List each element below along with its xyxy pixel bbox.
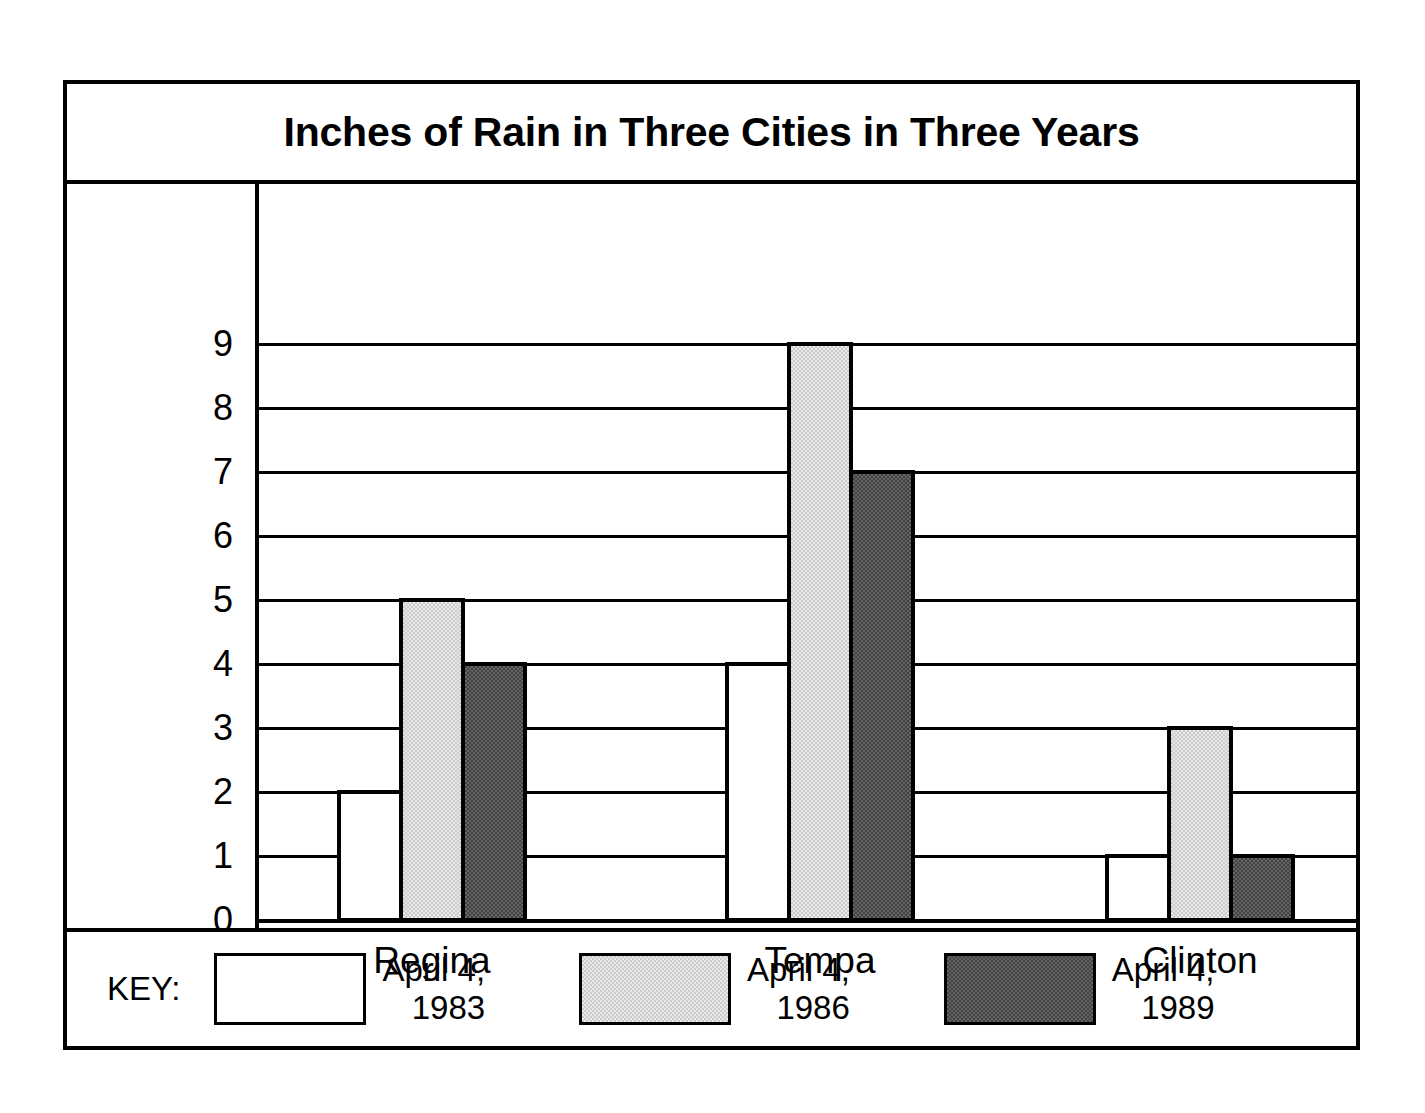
y-tick-label-7: 7 — [213, 454, 233, 490]
bar-tempa-1986 — [787, 342, 853, 922]
plot-area — [255, 184, 1356, 928]
y-tick-label-5: 5 — [213, 582, 233, 618]
legend-swatch-1986 — [579, 953, 731, 1025]
bar-regina-1986 — [399, 598, 465, 922]
legend-swatch-1983 — [214, 953, 366, 1025]
bar-clinton-1983 — [1105, 854, 1171, 922]
bar-tempa-1989 — [849, 470, 915, 922]
y-tick-label-9: 9 — [213, 326, 233, 362]
chart-page: Inches of Rain in Three Cities in Three … — [0, 0, 1425, 1113]
y-tick-label-2: 2 — [213, 774, 233, 810]
plot-region: 0123456789 ReginaTempaClinton — [67, 184, 1356, 928]
legend-text-1989-line2: 1989 — [1112, 989, 1215, 1027]
bar-clinton-1986 — [1167, 726, 1233, 922]
bar-regina-1989 — [461, 662, 527, 922]
bar-regina-1983 — [337, 790, 403, 922]
y-tick-label-8: 8 — [213, 390, 233, 426]
y-tick-label-3: 3 — [213, 710, 233, 746]
legend-title: KEY: — [107, 970, 180, 1008]
y-tick-label-6: 6 — [213, 518, 233, 554]
legend-text-1986-line2: 1986 — [747, 989, 850, 1027]
bar-clinton-1989 — [1229, 854, 1295, 922]
y-tick-label-1: 1 — [213, 838, 233, 874]
x-label-clinton: Clinton — [1142, 942, 1257, 979]
y-tick-label-4: 4 — [213, 646, 233, 682]
bar-tempa-1983 — [725, 662, 791, 922]
bars-layer — [255, 184, 1356, 928]
chart-title: Inches of Rain in Three Cities in Three … — [283, 109, 1139, 156]
legend-swatch-1989 — [944, 953, 1096, 1025]
chart-title-band: Inches of Rain in Three Cities in Three … — [67, 84, 1356, 184]
legend-text-1983-line2: 1983 — [382, 989, 485, 1027]
x-label-regina: Regina — [373, 942, 490, 979]
x-label-tempa: Tempa — [764, 942, 875, 979]
chart-frame: Inches of Rain in Three Cities in Three … — [63, 80, 1360, 1050]
y-axis-tick-labels: 0123456789 — [67, 184, 255, 928]
y-axis-line — [255, 184, 259, 928]
